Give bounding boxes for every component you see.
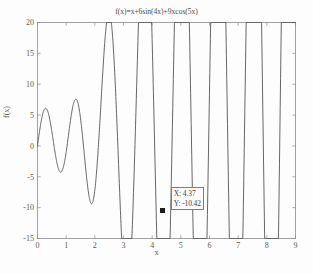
matlab-figure: f(x)=x+6sin(4x)+9xcos(5x) 0123456789-15-… (0, 0, 313, 274)
plot-canvas: 0123456789-15-10-505101520 (0, 0, 313, 274)
x-axis-label: x (0, 248, 313, 257)
svg-text:15: 15 (26, 49, 34, 58)
svg-text:0: 0 (30, 142, 34, 151)
svg-text:10: 10 (26, 80, 34, 89)
datatip-marker[interactable] (160, 208, 165, 213)
datatip-box[interactable]: X: 4.37 Y: -10.42 (171, 187, 204, 210)
svg-text:-5: -5 (27, 173, 34, 182)
y-axis-label: f(x) (2, 106, 11, 118)
datatip-x-value: X: 4.37 (174, 189, 201, 199)
datatip-y-value: Y: -10.42 (174, 199, 201, 209)
data-curve (38, 23, 296, 239)
axes: 0123456789-15-10-505101520 (23, 18, 297, 250)
svg-text:20: 20 (26, 18, 34, 27)
svg-text:-15: -15 (23, 234, 34, 243)
svg-text:-10: -10 (23, 203, 34, 212)
svg-text:5: 5 (30, 111, 34, 120)
